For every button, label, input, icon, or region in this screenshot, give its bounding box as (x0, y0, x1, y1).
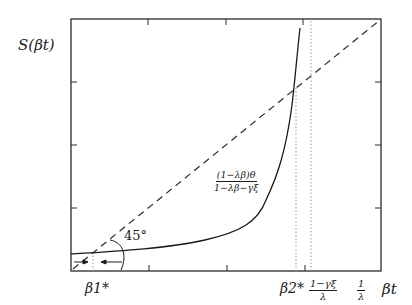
diagram-canvas (0, 0, 412, 305)
curve-label-numerator: (1−λβ)θ (216, 170, 257, 182)
angle-label: 45° (124, 228, 147, 243)
beta1-star-label: β1* (85, 280, 109, 296)
angle-arc (110, 240, 124, 270)
s-beta-curve (71, 28, 300, 254)
left-arrow-icon (101, 260, 122, 264)
beta2-star-label: β2* (280, 280, 304, 296)
tick-label-denominator: λ (358, 291, 364, 302)
tick-label-denominator: λ (320, 291, 326, 302)
y-axis-label: S(βt) (18, 36, 55, 54)
tick-label-numerator: 1−γξ (309, 279, 337, 291)
right-arrow-icon (74, 260, 88, 264)
one-over-lambda-label: 1 λ (357, 279, 365, 302)
forty-five-degree-line (73, 20, 380, 269)
curve-label-denominator: 1−λβ−γξ (214, 182, 258, 193)
curve-label: (1−λβ)θ 1−λβ−γξ (214, 170, 258, 192)
x-axis-label: βt (382, 280, 397, 298)
one-minus-gamma-xi-over-lambda-label: 1−γξ λ (309, 279, 337, 302)
tick-label-numerator: 1 (357, 279, 365, 291)
y-axis-label-text: S(βt) (18, 36, 55, 54)
